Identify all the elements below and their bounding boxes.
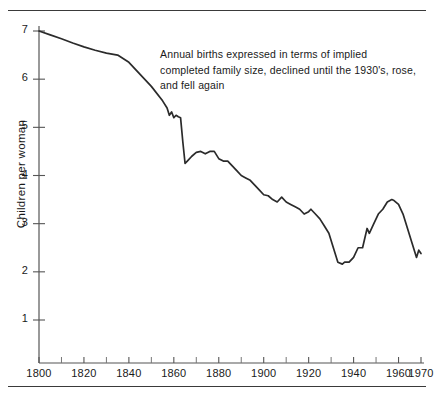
- x-tick-label-1970: 1970: [401, 367, 434, 379]
- x-tick-label-1820: 1820: [64, 367, 104, 379]
- x-tick-label-1880: 1880: [199, 367, 239, 379]
- y-tick-label-2: 2: [12, 264, 28, 276]
- y-tick-label-7: 7: [12, 23, 28, 35]
- x-tick-label-1840: 1840: [109, 367, 149, 379]
- x-tick-label-1860: 1860: [154, 367, 194, 379]
- y-tick-label-6: 6: [12, 71, 28, 83]
- x-tick-label-1920: 1920: [289, 367, 329, 379]
- y-axis-title: Children per woman: [15, 109, 27, 239]
- x-tick-label-1800: 1800: [19, 367, 59, 379]
- fertility-chart-figure: 1234567 18001820184018601880190019201940…: [0, 0, 434, 397]
- x-tick-label-1900: 1900: [244, 367, 284, 379]
- x-axis-major-ticks: [39, 357, 421, 363]
- x-tick-label-1940: 1940: [334, 367, 374, 379]
- chart-annotation-text: Annual births expressed in terms of impl…: [160, 47, 416, 94]
- y-tick-label-1: 1: [12, 312, 28, 324]
